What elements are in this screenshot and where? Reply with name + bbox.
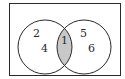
right-element-6: 6 [88,42,95,55]
left-element-2: 2 [33,27,40,40]
right-element-5: 5 [80,27,87,40]
venn-diagram: 2 4 1 5 6 [0,0,125,79]
intersection-element-1: 1 [61,34,68,47]
left-element-4: 4 [41,42,48,55]
